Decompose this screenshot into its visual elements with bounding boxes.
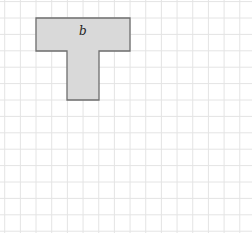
grid-figure: b — [0, 0, 252, 233]
shape-label: b — [79, 25, 87, 37]
t-shape-figure — [0, 0, 252, 233]
